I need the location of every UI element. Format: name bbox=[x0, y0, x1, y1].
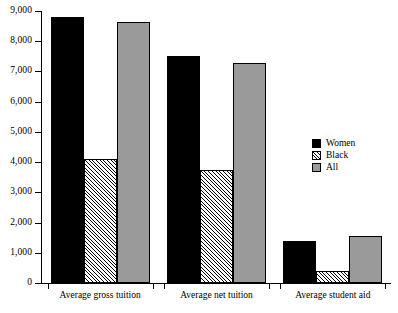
y-axis-tick-label: 3,000 bbox=[0, 187, 32, 197]
legend-item-label: Women bbox=[326, 138, 355, 149]
y-axis-tick-label: 5,000 bbox=[0, 127, 32, 137]
x-axis-tick bbox=[280, 283, 281, 289]
bar-all-group-1 bbox=[117, 22, 150, 283]
bar-all-group-3 bbox=[349, 236, 382, 283]
y-axis-tick bbox=[35, 283, 41, 284]
legend-swatch-icon bbox=[312, 151, 321, 160]
chart-legend: WomenBlackAll bbox=[312, 138, 355, 174]
y-axis-line bbox=[41, 11, 42, 284]
x-axis-line bbox=[41, 283, 391, 284]
x-axis-tick bbox=[153, 283, 154, 289]
y-axis-tick-label: 7,000 bbox=[0, 66, 32, 76]
y-axis-tick bbox=[35, 192, 41, 193]
x-axis-group-label: Average gross tuition bbox=[42, 290, 158, 301]
x-axis-tick bbox=[164, 283, 165, 289]
x-axis-group-label: Average student aid bbox=[275, 290, 391, 301]
bar-women-group-1 bbox=[51, 17, 84, 283]
y-axis-tick-label: 0 bbox=[0, 278, 32, 288]
bar-women-group-3 bbox=[283, 241, 316, 283]
bar-black-group-2 bbox=[200, 170, 233, 283]
x-axis-tick bbox=[385, 283, 386, 289]
y-axis-tick-label: 1,000 bbox=[0, 248, 32, 258]
y-axis-tick-label: 9,000 bbox=[0, 6, 32, 16]
y-axis-tick bbox=[35, 162, 41, 163]
bar-black-group-1 bbox=[84, 159, 117, 283]
y-axis-tick-label: 8,000 bbox=[0, 36, 32, 46]
bar-chart: 9,0008,0007,0006,0005,0004,0003,0002,000… bbox=[0, 0, 398, 313]
y-axis-tick bbox=[35, 253, 41, 254]
bar-all-group-2 bbox=[233, 63, 266, 283]
y-axis-tick-label: 6,000 bbox=[0, 97, 32, 107]
x-axis-tick bbox=[48, 283, 49, 289]
y-axis-tick bbox=[35, 11, 41, 12]
legend-item-label: Black bbox=[326, 150, 348, 161]
legend-item-women: Women bbox=[312, 138, 355, 149]
bar-black-group-3 bbox=[316, 271, 349, 283]
legend-item-all: All bbox=[312, 162, 355, 173]
y-axis-tick bbox=[35, 41, 41, 42]
y-axis-tick-label: 4,000 bbox=[0, 157, 32, 167]
y-axis-tick bbox=[35, 102, 41, 103]
bar-women-group-2 bbox=[167, 56, 200, 283]
legend-swatch-icon bbox=[312, 163, 321, 172]
legend-item-black: Black bbox=[312, 150, 355, 161]
y-axis-tick bbox=[35, 223, 41, 224]
legend-swatch-icon bbox=[312, 139, 321, 148]
y-axis-tick-label: 2,000 bbox=[0, 218, 32, 228]
y-axis-tick bbox=[35, 71, 41, 72]
y-axis-tick bbox=[35, 132, 41, 133]
x-axis-tick bbox=[269, 283, 270, 289]
legend-item-label: All bbox=[326, 162, 338, 173]
x-axis-group-label: Average net tuition bbox=[158, 290, 274, 301]
